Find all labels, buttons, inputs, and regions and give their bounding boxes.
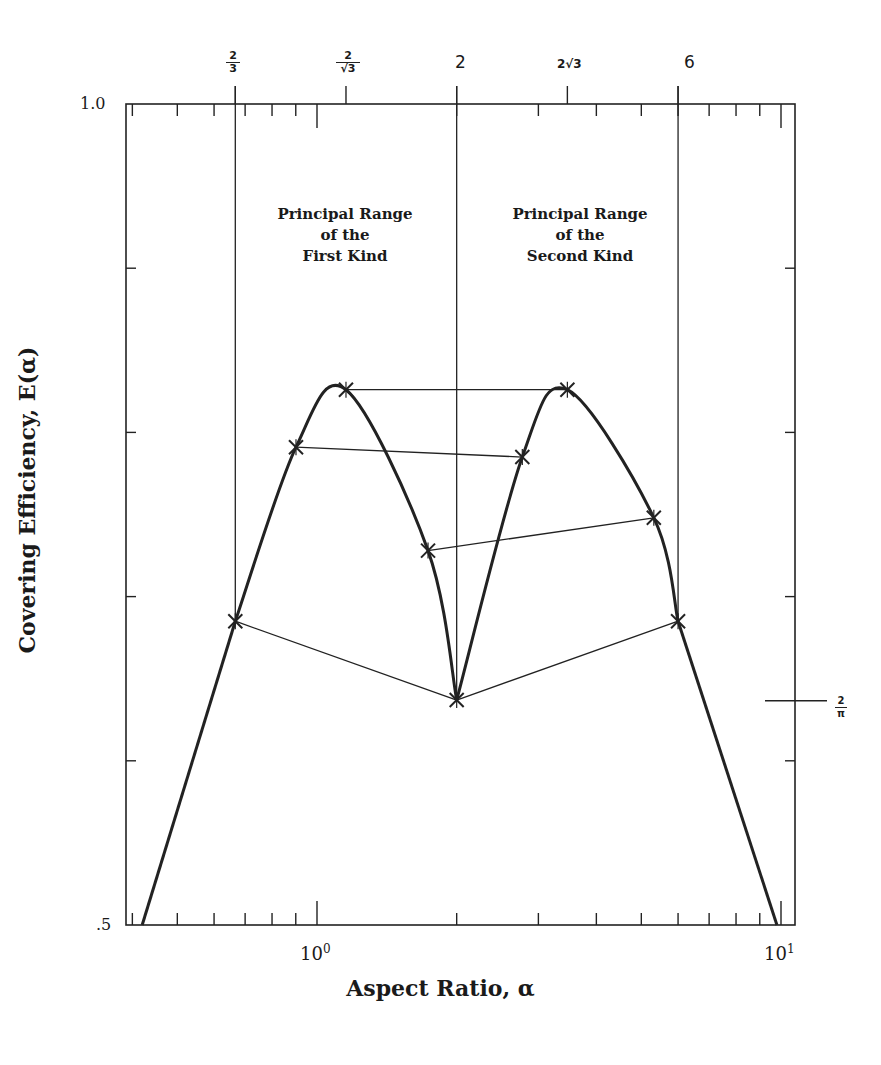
top-label-two-thirds: 23 (226, 50, 240, 75)
two-over-pi-label: 2π (835, 695, 847, 720)
curve-arch-second-kind (457, 388, 678, 701)
correspondence-line (296, 447, 522, 457)
curve-right-leg (678, 621, 777, 925)
axis-ticks (126, 86, 827, 925)
top-label-two: 2 (455, 52, 466, 72)
x-marker-icon (450, 692, 464, 708)
y-axis-label: Covering Efficiency, E(α) (14, 347, 40, 654)
x-marker-icon (421, 543, 435, 559)
y-tick-label-bottom: .5 (96, 915, 111, 934)
x-marker-icon (671, 613, 685, 629)
correspondence-line (457, 621, 678, 700)
plot-frame (126, 104, 795, 925)
region-label-first-kind: Principal Range of the First Kind (250, 204, 440, 267)
x-tick-label-10-1: 101 (764, 942, 795, 964)
plot-frame-rect (126, 104, 795, 925)
curve-left-leg (142, 621, 235, 925)
correspondence-line (235, 621, 456, 700)
region-label-second-kind: Principal Range of the Second Kind (480, 204, 680, 267)
x-marker-icon (647, 510, 661, 526)
chart-canvas (0, 0, 881, 1065)
x-marker-icon (228, 613, 242, 629)
y-tick-label-top: 1.0 (80, 94, 105, 113)
top-label-two-over-root3: 2√3 (336, 50, 360, 75)
efficiency-curve (142, 385, 777, 925)
region1-line1: Principal Range (250, 204, 440, 225)
x-tick-label-10-0: 100 (300, 942, 331, 964)
region2-line2: of the (480, 225, 680, 246)
top-label-two-root3: 2√3 (557, 57, 582, 71)
reference-lines (235, 86, 678, 700)
x-axis-label: Aspect Ratio, α (0, 975, 881, 1001)
curve-arch-first-kind (235, 385, 456, 700)
region2-line3: Second Kind (480, 246, 680, 267)
region1-line2: of the (250, 225, 440, 246)
top-label-six: 6 (684, 52, 695, 72)
region2-line1: Principal Range (480, 204, 680, 225)
correspondence-line (428, 518, 654, 551)
region1-line3: First Kind (250, 246, 440, 267)
